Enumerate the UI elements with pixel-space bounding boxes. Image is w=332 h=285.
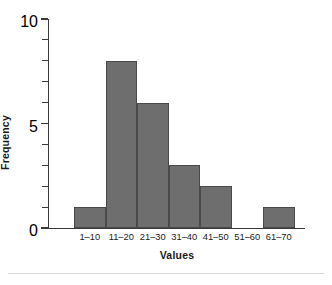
bar	[263, 207, 295, 228]
histogram-figure: Frequency 0510 1–1011–2021–3031–4041–505…	[0, 0, 332, 285]
y-tick-major	[41, 227, 48, 228]
x-tick-label: 61–70	[259, 232, 299, 242]
bar-series	[48, 19, 305, 228]
bar	[74, 207, 106, 228]
y-tick-major	[41, 18, 48, 19]
bar	[200, 186, 232, 228]
bar	[169, 165, 201, 228]
y-axis-title: Frequency	[10, 0, 32, 285]
x-axis-title: Values	[48, 249, 306, 261]
bar	[137, 103, 169, 228]
y-tick-label: 0	[10, 222, 38, 233]
x-axis-tick-labels: 1–1011–2021–3031–4041–5051–6061–70	[48, 232, 305, 246]
y-tick-label: 10	[10, 13, 38, 24]
bar	[106, 61, 138, 228]
x-axis-line	[48, 228, 305, 229]
bottom-divider	[8, 273, 324, 274]
y-tick-label: 5	[10, 118, 38, 129]
y-tick-major	[41, 123, 48, 124]
